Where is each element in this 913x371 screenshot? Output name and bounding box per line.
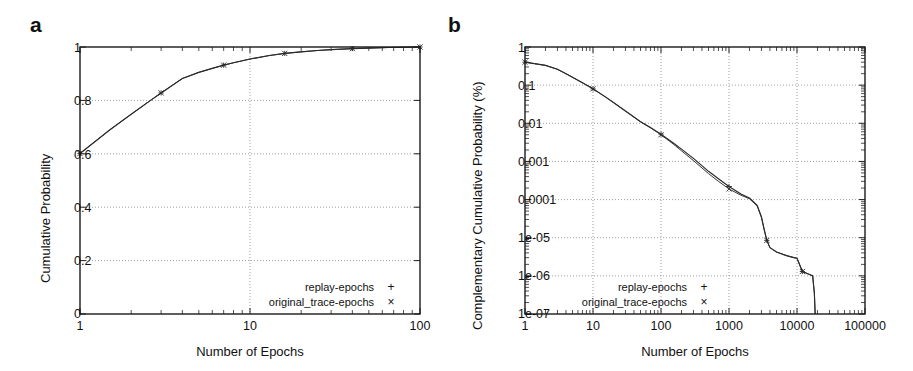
x-tick-label: 1 <box>77 320 84 333</box>
x-tick-label: 1000 <box>715 320 743 333</box>
legend-item: replay-epochs + <box>228 280 408 295</box>
x-tick-label: 100000 <box>844 320 886 333</box>
x-tick-label: 100 <box>410 320 431 333</box>
figure-container: a 0 0.2 0.4 0.6 0.8 1 1 10 100 Number of… <box>0 0 913 371</box>
cross-marker-icon: × <box>374 295 408 310</box>
legend-panel-a: replay-epochs + original_trace-epochs × <box>228 280 408 310</box>
legend-panel-b: replay-epochs + original_trace-epochs × <box>541 280 721 310</box>
x-axis-title: Number of Epochs <box>641 344 749 359</box>
legend-label: original_trace-epochs <box>582 296 687 310</box>
legend-label: original_trace-epochs <box>269 296 374 310</box>
cross-marker-icon: × <box>687 295 721 310</box>
legend-item: original_trace-epochs × <box>541 295 721 310</box>
x-tick-label: 1 <box>522 320 529 333</box>
plus-marker-icon: + <box>687 280 721 295</box>
y-axis-title: Complementary Cumulative Probability (%) <box>470 81 485 330</box>
x-tick-label: 10 <box>243 320 257 333</box>
plus-marker-icon: + <box>374 280 408 295</box>
panel-b: b 1e-07 1e-06 1e-05 0.0001 0.001 0.01 0.… <box>456 0 913 371</box>
x-tick-label: 10 <box>586 320 600 333</box>
x-axis-title: Number of Epochs <box>196 344 304 359</box>
x-tick-label: 10000 <box>780 320 815 333</box>
legend-item: original_trace-epochs × <box>228 295 408 310</box>
panel-a-plot <box>0 0 456 371</box>
legend-label: replay-epochs <box>305 281 374 295</box>
panel-a: a 0 0.2 0.4 0.6 0.8 1 1 10 100 Number of… <box>0 0 456 371</box>
y-axis-title: Cumulative Probability <box>38 154 53 283</box>
x-tick-label: 100 <box>651 320 672 333</box>
legend-item: replay-epochs + <box>541 280 721 295</box>
legend-label: replay-epochs <box>618 281 687 295</box>
